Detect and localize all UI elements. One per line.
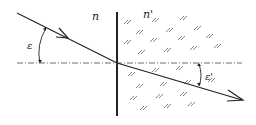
angle-epsilon-prime-arrow-icon-2 <box>197 83 201 86</box>
refraction-diagram: n n' ε ε' <box>0 0 256 125</box>
angle-epsilon-prime-label: ε' <box>205 71 213 82</box>
angle-epsilon-arrow-icon-2 <box>38 60 42 63</box>
refracted-ray <box>117 63 242 100</box>
medium-left-label: n <box>92 10 99 23</box>
medium-right-label: n' <box>143 8 153 21</box>
angle-epsilon-prime-arrow-icon <box>197 63 201 66</box>
angle-epsilon-arc <box>39 28 46 63</box>
angle-epsilon-label: ε <box>27 40 32 51</box>
angle-epsilon-prime-arc <box>199 64 201 86</box>
